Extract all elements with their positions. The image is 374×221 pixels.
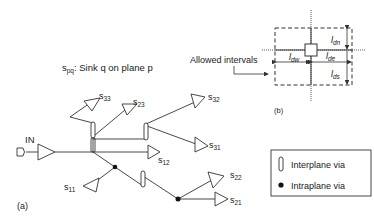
via-legend: Interplane via Intraplane via — [271, 150, 371, 196]
sink-label-s22: s22 — [230, 170, 242, 181]
buffer-box — [305, 44, 317, 56]
sink-label-s11: s11 — [64, 182, 76, 193]
interplane-via-icon — [91, 122, 95, 138]
diagram-svg: spq: Sink q on plane p — [0, 0, 374, 221]
diagram-canvas: spq: Sink q on plane p — [0, 0, 374, 221]
interval-label-ds: lds — [331, 69, 341, 80]
legend-interplane-label: Interplane via — [291, 160, 345, 170]
buffer-s11-icon — [83, 178, 99, 192]
buffer-s21-icon — [215, 192, 228, 206]
intraplane-via-icon — [176, 197, 181, 202]
sink-label-s32: s32 — [208, 92, 220, 103]
notation-legend: spq: Sink q on plane p — [62, 62, 153, 75]
interplane-via-icon — [279, 157, 283, 171]
clock-tree — [17, 94, 228, 206]
sink-label-s23: s23 — [133, 97, 145, 108]
panel-a-label: (a) — [17, 201, 28, 211]
sink-label-s21: s21 — [230, 195, 242, 206]
buffer-s33-icon — [84, 98, 100, 111]
intraplane-via-icon — [113, 165, 118, 170]
sink-label-s12: s12 — [158, 155, 170, 166]
buffer-s22-icon — [208, 172, 224, 188]
interval-label-de: lde — [326, 51, 336, 62]
input-label: IN — [25, 134, 35, 145]
interplane-via-icon — [144, 123, 148, 140]
interplane-via-icon — [141, 171, 145, 187]
sink-label-s33: s33 — [99, 91, 111, 102]
interval-label-dw: ldw — [289, 52, 301, 63]
input-buffer-icon — [38, 144, 55, 160]
buffer-s32-icon — [191, 94, 205, 108]
interval-label-dn: ldn — [331, 35, 341, 46]
panel-b-label: (b) — [274, 106, 284, 115]
allowed-intervals-label: Allowed intervals — [190, 55, 258, 65]
intraplane-via-icon — [278, 182, 283, 187]
legend-intraplane-label: Intraplane via — [291, 181, 345, 191]
buffer-s31-icon — [195, 137, 208, 152]
input-pin-icon — [17, 148, 25, 156]
sink-label-s31: s31 — [209, 140, 221, 151]
